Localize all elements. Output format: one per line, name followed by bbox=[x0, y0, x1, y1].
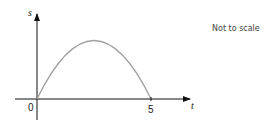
x-axis-label: t bbox=[191, 100, 194, 111]
y-axis-label: s bbox=[28, 7, 32, 18]
not-to-scale-note: Not to scale bbox=[212, 24, 260, 33]
diagram-canvas: s t 0 5 bbox=[0, 0, 271, 127]
x-tick-label-5: 5 bbox=[148, 104, 154, 115]
parabola-curve bbox=[37, 41, 151, 100]
origin-label: 0 bbox=[28, 102, 34, 113]
